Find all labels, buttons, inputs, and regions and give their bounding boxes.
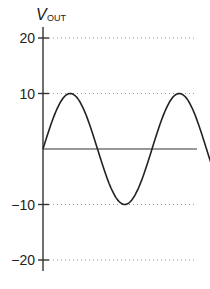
y-axis-label-subscript: OUT xyxy=(47,13,67,23)
vout-sine-chart: V OUT 2010−10−20 xyxy=(0,0,210,289)
y-tick-label: −10 xyxy=(11,197,35,213)
y-axis-label: V OUT xyxy=(36,6,67,23)
y-tick-label: −20 xyxy=(11,252,35,268)
y-tick-label: 10 xyxy=(19,86,35,102)
y-tick-label: 20 xyxy=(19,30,35,46)
